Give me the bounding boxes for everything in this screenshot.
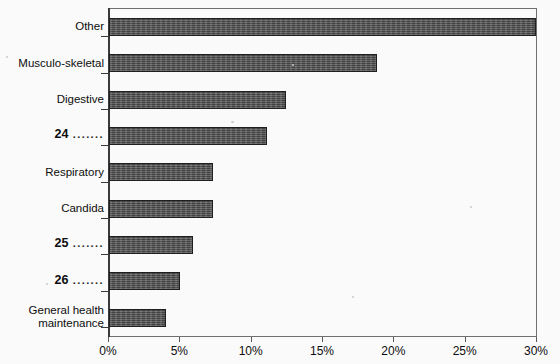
scan-speckle bbox=[352, 296, 354, 298]
scan-speckle bbox=[231, 121, 234, 123]
category-tick bbox=[101, 291, 108, 292]
bar-row bbox=[109, 9, 537, 45]
category-tick bbox=[101, 36, 108, 37]
category-label: Musculo-skeletal bbox=[0, 57, 104, 70]
x-axis-tick bbox=[536, 337, 537, 342]
bar-row bbox=[109, 227, 537, 263]
bars-layer bbox=[109, 9, 537, 336]
bar-row bbox=[109, 300, 537, 336]
category-tick bbox=[101, 254, 108, 255]
x-axis-tick bbox=[179, 337, 180, 342]
chart-title-clipped bbox=[108, 0, 537, 4]
category-tick bbox=[101, 73, 108, 74]
bar bbox=[109, 91, 286, 109]
x-axis-tick bbox=[108, 337, 109, 342]
category-label: 25 ....... bbox=[0, 237, 104, 250]
bar-chart-figure: OtherMusculo-skeletalDigestive24 .......… bbox=[0, 0, 560, 364]
x-axis-tick bbox=[251, 337, 252, 342]
bar bbox=[109, 272, 180, 290]
bar bbox=[109, 54, 377, 72]
bar-row bbox=[109, 154, 537, 190]
category-tick bbox=[101, 218, 108, 219]
x-axis-tick-label: 10% bbox=[228, 344, 274, 358]
category-label: 24 ....... bbox=[0, 128, 104, 141]
bar-row bbox=[109, 118, 537, 154]
bar bbox=[109, 18, 536, 36]
category-tick bbox=[101, 109, 108, 110]
category-axis-labels: OtherMusculo-skeletalDigestive24 .......… bbox=[0, 9, 104, 336]
x-axis-tick bbox=[393, 337, 394, 342]
scan-speckle bbox=[292, 64, 294, 66]
category-tick bbox=[101, 145, 108, 146]
footnote-dots: ....... bbox=[68, 237, 104, 249]
category-label: General healthmaintenance bbox=[0, 304, 104, 331]
category-label-line: maintenance bbox=[0, 317, 104, 331]
bar-row bbox=[109, 45, 537, 81]
bar bbox=[109, 200, 213, 218]
x-axis-tick-label: 25% bbox=[442, 344, 488, 358]
x-axis-tick-label: 0% bbox=[85, 344, 131, 358]
bar bbox=[109, 163, 213, 181]
footnote-number: 25 bbox=[54, 236, 68, 250]
bar-row bbox=[109, 82, 537, 118]
x-axis-tick-label: 5% bbox=[156, 344, 202, 358]
category-label: Respiratory bbox=[0, 166, 104, 179]
category-tick bbox=[101, 182, 108, 183]
bar bbox=[109, 309, 166, 327]
footnote-dots: ....... bbox=[68, 274, 104, 286]
bar-row bbox=[109, 191, 537, 227]
category-label: Candida bbox=[0, 202, 104, 215]
x-axis-tick-label: 15% bbox=[299, 344, 345, 358]
footnote-dots: ....... bbox=[68, 128, 104, 140]
x-axis-tick bbox=[465, 337, 466, 342]
bar bbox=[109, 236, 193, 254]
category-label: Digestive bbox=[0, 93, 104, 106]
category-label: 26 ....... bbox=[0, 274, 104, 287]
x-axis-tick-label: 20% bbox=[370, 344, 416, 358]
footnote-number: 24 bbox=[54, 127, 68, 141]
scan-speckle bbox=[46, 283, 48, 285]
bar-row bbox=[109, 263, 537, 299]
category-label: Other bbox=[0, 20, 104, 33]
category-tick bbox=[101, 327, 108, 328]
category-label-line: General health bbox=[0, 304, 104, 318]
scan-speckle bbox=[470, 206, 472, 208]
scan-speckle bbox=[6, 56, 8, 58]
x-axis-tick bbox=[322, 337, 323, 342]
footnote-number: 26 bbox=[54, 273, 68, 287]
x-axis-tick-label: 30% bbox=[513, 344, 559, 358]
bar bbox=[109, 127, 267, 145]
